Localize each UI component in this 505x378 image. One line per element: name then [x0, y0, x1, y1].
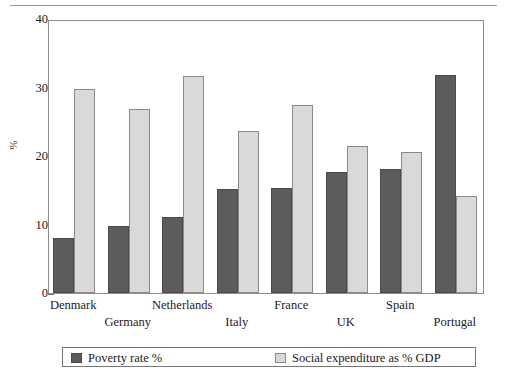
bar-germany-social-expenditure — [129, 109, 150, 293]
bar-germany-poverty-rate — [108, 226, 129, 293]
bar-spain-social-expenditure — [401, 152, 422, 293]
legend-label-social-expenditure: Social expenditure as % GDP — [292, 351, 441, 366]
bar-denmark-social-expenditure — [74, 89, 95, 293]
legend-label-poverty-rate: Poverty rate % — [88, 351, 162, 366]
bar-france-social-expenditure — [292, 105, 313, 293]
bar-france-poverty-rate — [271, 188, 292, 293]
legend-entry-poverty-rate: Poverty rate % — [71, 350, 162, 366]
x-label-france: France — [246, 298, 336, 313]
x-axis-category-labels: DenmarkGermanyNetherlandsItalyFranceUKSp… — [48, 294, 484, 340]
x-label-italy: Italy — [192, 315, 282, 330]
top-divider-rule — [10, 5, 497, 6]
bar-group-italy — [213, 21, 268, 293]
legend-entry-social-expenditure: Social expenditure as % GDP — [275, 350, 441, 366]
bar-portugal-poverty-rate — [435, 75, 456, 293]
bar-group-france — [267, 21, 322, 293]
bar-portugal-social-expenditure — [456, 196, 477, 293]
bar-spain-poverty-rate — [380, 169, 401, 293]
bar-group-denmark — [49, 21, 104, 293]
bar-group-netherlands — [158, 21, 213, 293]
bar-netherlands-social-expenditure — [183, 76, 204, 293]
chart-figure: % 010203040 DenmarkGermanyNetherlandsIta… — [0, 0, 505, 378]
bars-layer — [49, 21, 483, 293]
bar-italy-social-expenditure — [238, 131, 259, 293]
x-label-denmark: Denmark — [28, 298, 118, 313]
bar-uk-poverty-rate — [326, 172, 347, 293]
bar-denmark-poverty-rate — [53, 238, 74, 293]
legend-swatch-poverty-rate — [71, 353, 82, 363]
bar-netherlands-poverty-rate — [162, 217, 183, 293]
bar-group-portugal — [431, 21, 486, 293]
legend-swatch-social-expenditure — [275, 353, 286, 363]
bar-italy-poverty-rate — [217, 189, 238, 293]
x-label-uk: UK — [301, 315, 391, 330]
x-label-portugal: Portugal — [410, 315, 500, 330]
x-label-spain: Spain — [355, 298, 445, 313]
plot-area — [48, 20, 484, 294]
x-label-netherlands: Netherlands — [137, 298, 227, 313]
bar-group-spain — [376, 21, 431, 293]
bar-group-uk — [322, 21, 377, 293]
chart-legend: Poverty rate % Social expenditure as % G… — [62, 347, 476, 367]
x-label-germany: Germany — [83, 315, 173, 330]
bar-uk-social-expenditure — [347, 146, 368, 293]
bar-group-germany — [104, 21, 159, 293]
